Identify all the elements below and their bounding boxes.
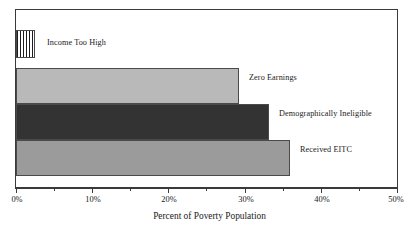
x-tick-minor-15 — [130, 188, 131, 191]
x-tick-major-0 — [16, 188, 17, 193]
x-tick-label-50: 50% — [388, 194, 403, 205]
bar-income-too-high[interactable] — [16, 30, 35, 58]
bar-label-income-too-high: Income Too High — [47, 38, 106, 48]
x-tick-minor-5 — [54, 188, 55, 191]
x-tick-label-10: 10% — [85, 194, 100, 205]
bar-label-zero-earnings: Zero Earnings — [249, 73, 297, 83]
x-tick-minor-45 — [359, 188, 360, 191]
x-tick-label-40: 40% — [314, 194, 329, 205]
bar-chart: Income Too High Zero Earnings Demographi… — [0, 0, 419, 231]
x-tick-major-40 — [321, 188, 322, 193]
x-tick-major-50 — [397, 188, 398, 193]
x-tick-major-10 — [92, 188, 93, 193]
x-tick-label-30: 30% — [238, 194, 253, 205]
x-tick-minor-35 — [283, 188, 284, 191]
bar-label-received-eitc: Received EITC — [300, 145, 352, 155]
x-axis-title: Percent of Poverty Population — [0, 210, 419, 222]
x-tick-label-20: 20% — [161, 194, 176, 205]
bar-received-eitc[interactable] — [16, 140, 290, 176]
bar-zero-earnings[interactable] — [16, 68, 239, 104]
bar-demographically-ineligible[interactable] — [16, 104, 269, 140]
bar-label-demographically-ineligible: Demographically Ineligible — [279, 109, 372, 119]
bars-layer — [16, 10, 397, 187]
x-tick-major-20 — [168, 188, 169, 193]
x-tick-minor-25 — [206, 188, 207, 191]
x-tick-label-0: 0% — [11, 194, 22, 205]
x-tick-major-30 — [245, 188, 246, 193]
